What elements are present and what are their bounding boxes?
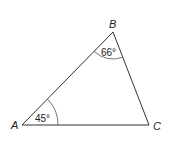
vertex-label-b: B [109,18,116,30]
vertex-label-a: A [10,119,18,131]
triangle-abc [22,32,149,125]
angle-label-a: 45° [35,113,50,124]
vertex-label-c: C [153,120,161,132]
angle-label-b: 66° [101,47,116,58]
triangle-diagram: A B C 45° 66° [0,0,169,158]
